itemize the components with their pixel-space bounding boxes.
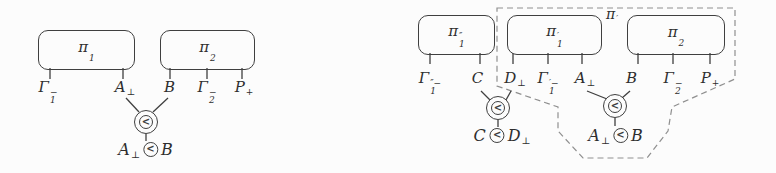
- proof-box-pi1-doubleprime: π″1: [418, 15, 495, 55]
- proof-box-pi2: π2: [160, 30, 255, 70]
- wire-link-arm: [587, 91, 607, 99]
- before-link-node: <: [134, 110, 158, 134]
- proof-box-pi1-label: π1: [78, 38, 95, 63]
- proof-box-pi2-right-label: π2: [668, 23, 685, 48]
- before-link-node-ab: <: [603, 94, 627, 118]
- conclusion-label-a-before-b-right: A⊥ < B: [588, 126, 643, 146]
- proof-box-pi2-right: π2: [627, 15, 725, 55]
- proof-box-pi1-prime-label: π′1: [546, 22, 563, 48]
- proof-net-figure: π1 π2 Γ−1 A⊥ B Γ−2 P+ < A⊥ < B π″1 π′1 π…: [0, 0, 776, 173]
- before-connective-icon: <: [491, 101, 505, 115]
- before-connective-icon: <: [139, 115, 153, 129]
- port-label-gamma1-minus: Γ−1: [39, 79, 58, 104]
- wire-link-arm: [506, 91, 511, 100]
- port-label-b: B: [164, 79, 176, 96]
- before-link-node-cd: <: [486, 96, 510, 120]
- conclusion-label-a-before-b: A⊥ < B: [118, 140, 173, 160]
- port-label-gamma1-doubleprime-minus: Γ″−1: [419, 70, 441, 95]
- before-connective-icon: <: [143, 142, 158, 157]
- proof-box-pi1-prime: π′1: [507, 15, 602, 55]
- port-label-p-plus-right: P+: [701, 70, 720, 88]
- wire-link-arm: [126, 98, 139, 112]
- conclusion-label-c-before-d: C < D⊥: [473, 126, 530, 146]
- before-connective-icon: <: [613, 128, 628, 143]
- port-label-b-right: B: [626, 70, 638, 87]
- region-label-pi-prime: π′: [606, 7, 618, 23]
- port-label-a-perp-right: A⊥: [575, 70, 595, 88]
- port-label-gamma2-minus-right: Γ−2: [664, 70, 683, 95]
- before-connective-icon: <: [490, 128, 505, 143]
- before-connective-icon: <: [608, 99, 622, 113]
- proof-box-pi1-doubleprime-label: π″1: [448, 22, 465, 48]
- proof-box-pi2-label: π2: [199, 38, 216, 63]
- port-label-gamma1-prime-minus: Γ′−1: [537, 70, 558, 95]
- port-label-c: C: [472, 70, 484, 87]
- port-label-gamma2-minus: Γ−2: [198, 79, 217, 104]
- proof-box-pi1: π1: [38, 30, 135, 70]
- wire-link-arm: [153, 98, 168, 112]
- port-label-p-plus: P+: [235, 79, 254, 97]
- port-label-a-perp: A⊥: [115, 79, 135, 97]
- port-label-d-perp: D⊥: [504, 70, 526, 88]
